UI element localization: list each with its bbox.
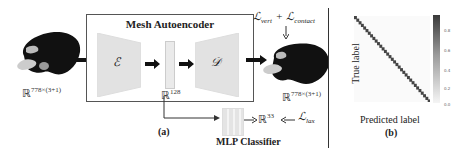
panel-b-caption: (b) bbox=[385, 127, 397, 138]
input-hand-mesh bbox=[14, 26, 84, 81]
classifier-output-dim: ℝ33 bbox=[258, 112, 274, 126]
arrow-icon bbox=[179, 59, 195, 69]
reconstruction-loss: ℒvert + ℒcontact bbox=[253, 10, 315, 25]
mesh-autoencoder-box: Mesh Autoencoder ℰ ℝ128 𝒟 bbox=[86, 14, 254, 102]
panel-a-caption: (a) bbox=[158, 126, 170, 137]
colorbar-tick: 0.6 bbox=[444, 48, 450, 53]
latent-vector bbox=[165, 41, 175, 89]
classifier-connector bbox=[160, 96, 224, 126]
arrow-icon bbox=[145, 59, 161, 69]
colorbar-tick: 0.8 bbox=[444, 28, 450, 33]
arrow-left-icon bbox=[280, 116, 296, 124]
input-dim-label: ℝ778×(3+1) bbox=[22, 86, 61, 100]
output-hand-mesh bbox=[262, 38, 332, 90]
classifier-label: MLP Classifier bbox=[216, 136, 281, 147]
colorbar-tick: 0.0 bbox=[444, 102, 450, 107]
classification-loss: ℒlax bbox=[298, 110, 315, 125]
output-dim-label: ℝ778×(3+1) bbox=[282, 90, 321, 104]
encoder-symbol: ℰ bbox=[113, 55, 120, 70]
arrow-icon bbox=[244, 116, 258, 124]
decoder-symbol: 𝒟 bbox=[211, 55, 221, 70]
x-axis-label: Predicted label bbox=[360, 114, 420, 125]
confusion-matrix-diagonal bbox=[354, 16, 430, 102]
confusion-matrix bbox=[354, 16, 430, 102]
panel-divider bbox=[328, 8, 329, 148]
colorbar bbox=[433, 15, 440, 103]
colorbar-tick: 0.2 bbox=[444, 86, 450, 91]
box-title: Mesh Autoencoder bbox=[87, 18, 253, 30]
mlp-classifier-block bbox=[222, 108, 244, 136]
colorbar-tick: 0.4 bbox=[444, 68, 450, 73]
y-axis-label: True label bbox=[350, 39, 361, 89]
